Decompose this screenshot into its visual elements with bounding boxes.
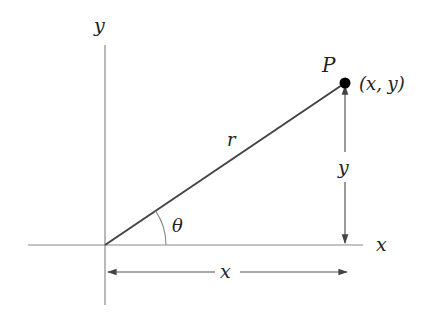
radius-line — [105, 83, 345, 245]
angle-theta: θ — [156, 211, 183, 245]
x-axis-label: x — [376, 233, 387, 255]
angle-label: θ — [172, 215, 183, 236]
point-coords-label: (x, y) — [359, 73, 405, 94]
vertical-measure: y — [337, 86, 349, 243]
point-name-label: P — [321, 53, 336, 77]
radius-segment: r — [105, 83, 345, 245]
y-axis-label: y — [93, 14, 105, 36]
radius-label: r — [227, 129, 237, 150]
point-p: P (x, y) — [321, 53, 405, 94]
point-marker — [340, 78, 351, 89]
horizontal-measure: x — [108, 260, 347, 282]
polar-coordinates-diagram: x y r θ y x P (x, y) — [0, 0, 437, 316]
vertical-measure-label: y — [337, 156, 349, 178]
horizontal-measure-label: x — [220, 260, 231, 282]
angle-arc — [156, 211, 166, 245]
